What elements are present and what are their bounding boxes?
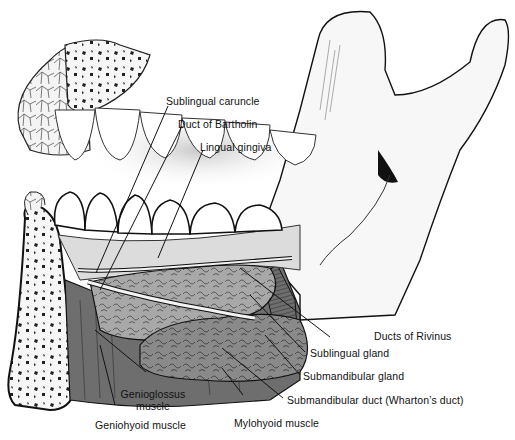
label-submandibular-duct: Submandibular duct (Wharton’s duct): [287, 394, 464, 406]
label-genioglossus-muscle: Genioglossus muscle: [118, 388, 188, 412]
label-geniohyoid-muscle: Geniohyoid muscle: [95, 419, 186, 431]
anatomy-diagram: Sublingual caruncle Duct of Bartholin Li…: [0, 0, 515, 440]
label-ducts-of-rivinus: Ducts of Rivinus: [374, 330, 451, 342]
mandible-illustration: [0, 0, 515, 440]
label-genioglossus-line2: muscle: [118, 400, 188, 412]
label-genioglossus-line1: Genioglossus: [118, 388, 188, 400]
label-lingual-gingiva: Lingual gingiva: [200, 141, 272, 153]
lower-teeth: [55, 192, 282, 234]
label-duct-of-bartholin: Duct of Bartholin: [178, 118, 257, 130]
label-mylohyoid-muscle: Mylohyoid muscle: [234, 417, 319, 429]
label-sublingual-gland: Sublingual gland: [310, 347, 389, 359]
maxilla-section-inner: [65, 40, 150, 112]
label-submandibular-gland: Submandibular gland: [303, 370, 404, 382]
label-sublingual-caruncle: Sublingual caruncle: [166, 95, 260, 107]
